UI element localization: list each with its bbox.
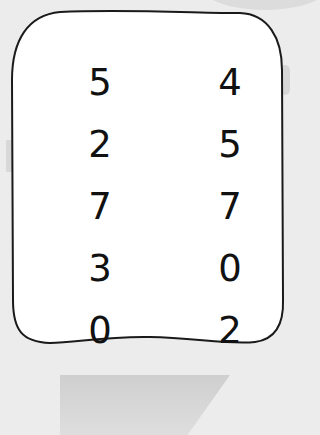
number-right-2: 5	[150, 114, 250, 176]
number-left-5: 0	[50, 300, 150, 362]
number-right-1: 4	[150, 52, 250, 114]
number-left-4: 3	[50, 238, 150, 300]
number-left-2: 2	[50, 114, 150, 176]
number-right-5: 2	[150, 300, 250, 362]
number-left-3: 7	[50, 176, 150, 238]
number-left-1: 5	[50, 52, 150, 114]
number-right-4: 0	[150, 238, 250, 300]
number-right-3: 7	[150, 176, 250, 238]
number-grid: 5 4 2 5 7 7 3 0 0 2	[50, 52, 250, 362]
